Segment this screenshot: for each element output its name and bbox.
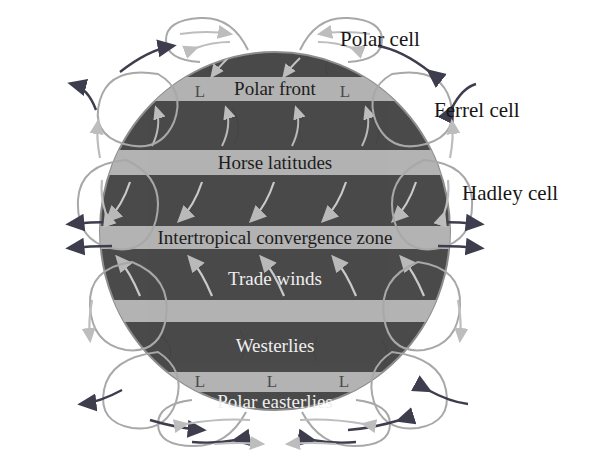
band-label-polar-front: Polar front [234, 78, 317, 99]
diagram-canvas: Polar front Horse latitudes Intertropica… [0, 0, 597, 459]
band-label-westerlies: Westerlies [236, 335, 315, 356]
circulation-diagram: Polar front Horse latitudes Intertropica… [0, 0, 597, 459]
low-pressure-marker-south-3: L [339, 372, 349, 391]
band-label-horse-latitudes: Horse latitudes [218, 152, 333, 173]
band-label-trade-winds: Trade winds [228, 268, 322, 289]
band-label-itcz: Intertropical convergence zone [158, 227, 393, 248]
cell-label-hadley-cell: Hadley cell [462, 181, 558, 205]
low-pressure-marker-south-2: L [267, 372, 277, 391]
band-label-polar-easterlies: Polar easterlies [217, 391, 333, 412]
low-pressure-marker-north-2: L [340, 82, 350, 101]
cell-label-polar-cell: Polar cell [340, 27, 420, 51]
cell-label-ferrel-cell: Ferrel cell [434, 98, 520, 122]
low-pressure-marker-north-1: L [195, 82, 205, 101]
polar-cell-loop-top-left [166, 18, 248, 62]
band-subpolar [95, 300, 455, 322]
low-pressure-marker-south-1: L [195, 372, 205, 391]
